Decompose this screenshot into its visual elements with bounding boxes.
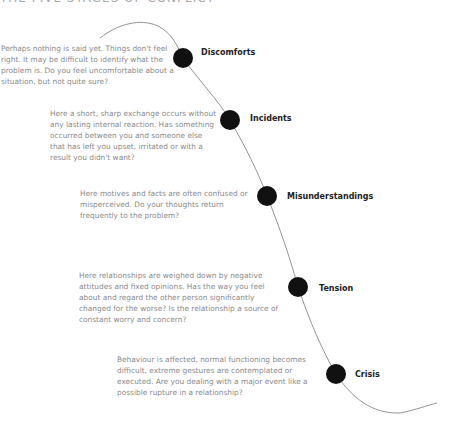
stage-misunderstandings-label: Misunderstandings (287, 192, 373, 201)
stage-crisis-marker (326, 364, 346, 384)
stage-discomforts-description: Perhaps nothing is said yet. Things don'… (1, 43, 179, 87)
stage-discomforts-marker (173, 48, 193, 68)
stage-incidents-label: Incidents (250, 114, 292, 123)
stage-discomforts-label: Discomforts (201, 48, 255, 57)
stage-crisis-label: Crisis (355, 370, 380, 379)
stage-tension-label: Tension (319, 284, 353, 293)
stage-misunderstandings-marker (257, 186, 277, 206)
stage-incidents-marker (220, 110, 240, 130)
stage-tension-description: Here relationships are weighed down by n… (79, 270, 287, 325)
stage-incidents-description: Here a short, sharp exchange occurs with… (50, 108, 218, 163)
stage-misunderstandings-description: Here motives and facts are often confuse… (80, 188, 258, 221)
stage-crisis-description: Behaviour is affected, normal functionin… (117, 354, 327, 398)
stage-tension-marker (288, 277, 308, 297)
